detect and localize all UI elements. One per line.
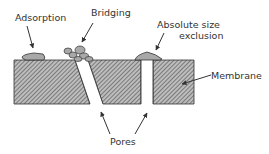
bridging-arrow [82,23,93,42]
pores-arrow-left [101,112,110,134]
pores-arrow-right [135,113,147,134]
membrane-label: Membrane [211,70,262,81]
vertical-pore [141,60,153,104]
adsorption-label: Adsorption [15,12,66,23]
absolute-size-label-line1: Absolute size [157,19,220,30]
absolute-size-label-line2: exclusion [179,30,223,41]
pores-label: Pores [110,136,136,147]
size-exclusion-arrow [156,33,164,50]
bridging-particle-cluster [64,46,93,62]
adsorption-arrow [27,26,33,48]
membrane-filtration-diagram: Adsorption Bridging Absolute size exclus… [0,0,269,154]
adsorption-particle [22,53,45,60]
membrane [14,60,194,104]
size-exclusion-particle [135,52,162,60]
bridging-label: Bridging [91,7,131,18]
